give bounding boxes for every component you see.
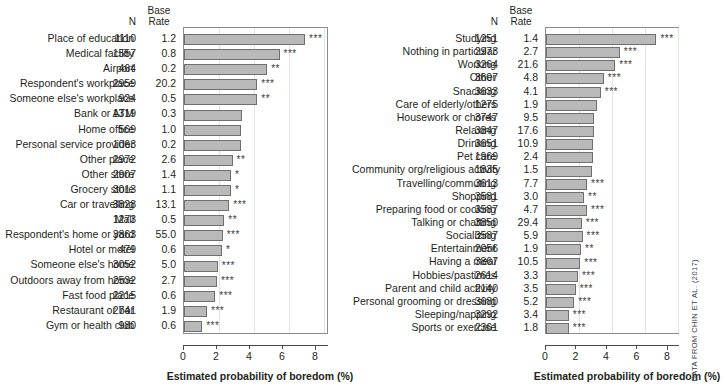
- bar[interactable]: [546, 166, 592, 177]
- left-panel: N Base Rate ****************************…: [0, 0, 352, 387]
- n-value: 3847: [462, 124, 498, 136]
- n-value: 2973: [462, 45, 498, 57]
- bar[interactable]: [184, 200, 229, 211]
- bar-lane: ***: [184, 228, 327, 243]
- base-rate-value: 4.1: [508, 85, 538, 97]
- bar-lane: ***: [546, 321, 678, 336]
- bar[interactable]: [546, 297, 574, 308]
- bar[interactable]: [546, 323, 569, 334]
- bar[interactable]: [184, 291, 215, 302]
- data-source-credit: DATA FROM CHIN ET AL. (2017): [690, 259, 699, 381]
- n-value: 464: [100, 62, 136, 74]
- bar[interactable]: [546, 87, 601, 98]
- bar[interactable]: [546, 310, 569, 321]
- significance-marker: ***: [582, 270, 595, 281]
- base-rate-value: 0.3: [146, 107, 176, 119]
- bar[interactable]: [546, 139, 593, 150]
- chart-row: Nothing in particular29732.7: [352, 44, 545, 57]
- bar[interactable]: [184, 140, 241, 151]
- bar[interactable]: [546, 113, 594, 124]
- bar-lane: **: [184, 213, 327, 228]
- bar[interactable]: [184, 79, 257, 90]
- axis-tick-label: 6: [628, 350, 644, 362]
- bar[interactable]: [184, 215, 224, 226]
- base-rate-value: 1.9: [146, 304, 176, 316]
- bar[interactable]: [546, 179, 587, 190]
- n-value: 2614: [462, 269, 498, 281]
- base-rate-value: 0.6: [146, 319, 176, 331]
- bar[interactable]: [184, 125, 241, 136]
- chart-row: Fast food place22150.6: [0, 288, 183, 303]
- bar[interactable]: [546, 47, 620, 58]
- bar[interactable]: [546, 60, 615, 71]
- bar[interactable]: [184, 261, 218, 272]
- bar-lane: [184, 138, 327, 153]
- n-value: 1273: [100, 213, 136, 225]
- right-x-axis: 02468: [545, 345, 679, 367]
- bar[interactable]: [184, 155, 233, 166]
- significance-marker: ***: [586, 217, 599, 228]
- bar[interactable]: [546, 205, 587, 216]
- base-rate-value: 0.2: [146, 138, 176, 150]
- chart-row: Community org/religious activity18351.5: [352, 162, 545, 175]
- base-rate-value: 5.2: [508, 295, 538, 307]
- significance-marker: ***: [222, 260, 235, 271]
- significance-marker: ***: [619, 59, 632, 70]
- bar[interactable]: [546, 100, 597, 111]
- axis-tick-label: 2: [567, 350, 583, 362]
- bar[interactable]: [546, 73, 604, 84]
- bar[interactable]: [184, 110, 242, 121]
- base-rate-value: 2.6: [146, 153, 176, 165]
- n-value: 3613: [462, 177, 498, 189]
- base-rate-value: 0.5: [146, 92, 176, 104]
- chart-row: Medical facility15570.8: [0, 46, 183, 61]
- n-value: 479: [100, 243, 136, 255]
- bar[interactable]: [546, 152, 593, 163]
- base-rate-header-line2: Rate: [142, 16, 176, 27]
- left-x-axis: 02468: [183, 345, 328, 367]
- bar[interactable]: [184, 94, 257, 105]
- bar-lane: **: [184, 62, 327, 77]
- bar[interactable]: [184, 245, 222, 256]
- bar[interactable]: [546, 258, 580, 269]
- base-rate-value: 29.4: [508, 216, 538, 228]
- bar[interactable]: [184, 64, 267, 75]
- significance-marker: ***: [584, 257, 597, 268]
- bar[interactable]: [546, 192, 584, 203]
- bar[interactable]: [546, 244, 581, 255]
- bar[interactable]: [546, 34, 656, 45]
- significance-marker: **: [228, 214, 237, 225]
- bar-lane: **: [184, 153, 327, 168]
- bar[interactable]: [546, 284, 576, 295]
- bar[interactable]: [546, 271, 578, 282]
- axis-tick-label: 8: [659, 350, 675, 362]
- significance-marker: ***: [624, 46, 637, 57]
- chart-row: Relaxing384717.6: [352, 123, 545, 136]
- base-rate-value: 3.3: [508, 269, 538, 281]
- bar[interactable]: [184, 34, 305, 45]
- significance-marker: ***: [591, 204, 604, 215]
- significance-marker: ***: [261, 78, 274, 89]
- chart-row: Respondent's workplace295920.2: [0, 76, 183, 91]
- bar[interactable]: [184, 321, 202, 332]
- bar[interactable]: [546, 231, 583, 242]
- significance-marker: ***: [219, 290, 232, 301]
- bar[interactable]: [546, 218, 582, 229]
- bar[interactable]: [184, 306, 207, 317]
- bar[interactable]: [184, 49, 280, 60]
- bar[interactable]: [184, 185, 231, 196]
- bar[interactable]: [546, 126, 594, 137]
- axis-tick-label: 4: [598, 350, 614, 362]
- axis-tick-label: 0: [537, 350, 553, 362]
- chart-row: Entertainment20561.9: [352, 241, 545, 254]
- significance-marker: ***: [309, 33, 322, 44]
- significance-marker: ***: [578, 296, 591, 307]
- bar-lane: [184, 123, 327, 138]
- bar[interactable]: [184, 276, 217, 287]
- bar[interactable]: [184, 230, 223, 241]
- base-rate-value: 20.2: [146, 77, 176, 89]
- axis-tick: [575, 345, 576, 349]
- n-value: 3850: [462, 216, 498, 228]
- bar[interactable]: [184, 170, 231, 181]
